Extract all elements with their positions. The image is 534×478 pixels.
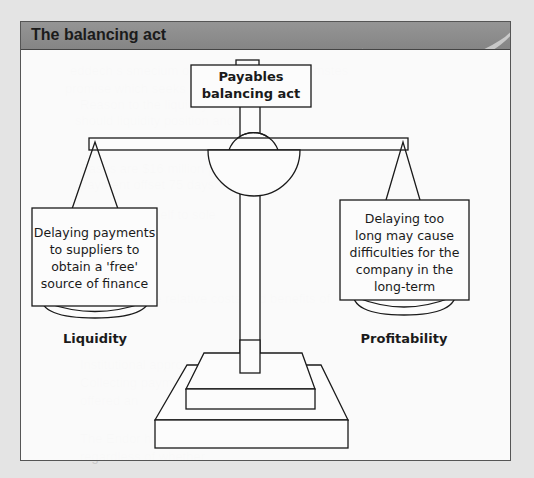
pivot-bowl — [208, 150, 300, 196]
left-pan-text-line: to suppliers to — [32, 241, 157, 258]
base-bottom-tier — [155, 420, 348, 448]
center-label: Payables balancing act — [191, 68, 311, 102]
right-pan-text: Delaying too long may cause difficulties… — [340, 210, 469, 295]
right-pan-text-line: long-term — [340, 278, 469, 295]
left-hanger — [72, 142, 118, 209]
left-pan-text-line: obtain a 'free' — [32, 258, 157, 275]
center-label-line2: balancing act — [191, 85, 311, 102]
right-pan-text-line: long may cause — [340, 227, 469, 244]
profitability-label: Profitability — [354, 331, 454, 346]
left-pan-text: Delaying payments to suppliers to obtain… — [32, 224, 157, 292]
right-pan-text-line: difficulties for the — [340, 244, 469, 261]
liquidity-label: Liquidity — [45, 331, 145, 346]
center-label-line1: Payables — [191, 68, 311, 85]
right-hanger — [386, 142, 420, 200]
right-pan-text-line: Delaying too — [340, 210, 469, 227]
scale-beam — [89, 138, 408, 150]
scale-post-foot — [240, 340, 260, 373]
left-pan-text-line: Delaying payments — [32, 224, 157, 241]
base-top-tier — [186, 389, 315, 409]
left-pan-text-line: source of finance — [32, 275, 157, 292]
right-pan-text-line: company in the — [340, 261, 469, 278]
